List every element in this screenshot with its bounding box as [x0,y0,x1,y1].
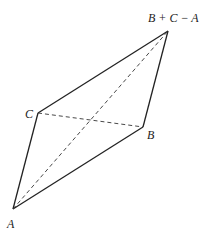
edge-b-d [143,31,168,127]
label-b: B [147,128,155,142]
label-a: A [6,217,15,231]
diagonal-c-b [38,113,143,127]
edge-a-b [13,127,143,209]
edge-a-c [13,113,38,209]
label-d: B + C − A [148,11,199,25]
parallelogram-diagram: B + C − A C B A [0,0,207,239]
label-c: C [25,107,34,121]
edge-c-d [38,31,168,113]
